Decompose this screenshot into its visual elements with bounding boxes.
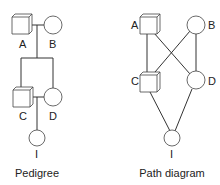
path-label-c: C [131, 75, 139, 87]
diagram-canvas: A B C D I Pedigree A B C D I Path diagra… [0, 0, 220, 185]
pedigree-label-b: B [49, 38, 56, 50]
pedigree-node-b-female-icon [44, 16, 62, 34]
pedigree-node-i-icon [29, 130, 45, 146]
path-a-d [154, 33, 190, 74]
pedigree-node-c-male-icon [13, 87, 33, 107]
pedigree-caption: Pedigree [15, 167, 59, 179]
pedigree-label-a: A [19, 38, 27, 50]
path-label-a: A [131, 19, 139, 31]
path-b-c [155, 31, 190, 72]
path-node-d-icon [187, 71, 205, 89]
path-label-d: D [208, 75, 216, 87]
path-node-a-icon [140, 14, 160, 34]
path-d-i [175, 89, 192, 131]
pedigree-label-i: I [35, 148, 38, 160]
path-node-b-icon [187, 16, 205, 34]
pedigree-label-c: C [19, 110, 27, 122]
pedigree-node-d-female-icon [44, 88, 62, 106]
path-label-b: B [208, 19, 215, 31]
pedigree-node-a-male-icon [12, 14, 32, 34]
pedigree-label-d: D [49, 110, 57, 122]
path-c-i [150, 92, 170, 131]
path-label-i: I [170, 148, 173, 160]
path-diagram-caption: Path diagram [139, 167, 204, 179]
path-node-c-icon [140, 72, 160, 92]
path-node-i-icon [164, 130, 180, 146]
